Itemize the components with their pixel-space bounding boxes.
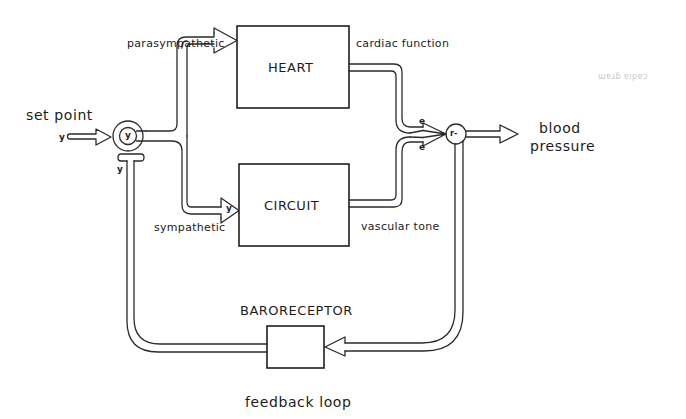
set-point-label: set point: [26, 108, 93, 122]
baroreceptor-input-arrow: [325, 337, 345, 356]
vascular-tone-label: vascular tone: [361, 221, 440, 232]
bleed-through-artifact: ɯɐɹɓ ɐıpɐɔ: [598, 73, 648, 81]
blood-pressure-label-line1: blood: [539, 121, 581, 135]
circuit-label: CIRCUIT: [264, 199, 319, 212]
effect-variable-top: e: [419, 117, 425, 126]
sympathetic-label: sympathetic: [154, 222, 225, 233]
baroreceptor-label: BARORECEPTOR: [240, 304, 353, 317]
input-variable-y: y: [59, 133, 65, 142]
cardiac-function-pipe: [349, 64, 423, 133]
comparator-variable-y: y: [125, 131, 131, 140]
feedback-variable-y: y: [117, 165, 123, 174]
heart-label: HEART: [268, 61, 313, 74]
feedback-pipe-right: [345, 141, 463, 351]
block-diagram: [0, 0, 686, 419]
autonomic-channel: [137, 33, 222, 218]
blood-pressure-label-line2: pressure: [530, 139, 595, 153]
baroreceptor-block: [267, 326, 324, 368]
summing-variable: r-: [450, 130, 457, 138]
feedback-loop-label: feedback loop: [245, 395, 351, 409]
vascular-tone-pipe: [349, 137, 423, 207]
parasympathetic-label: parasympathetic: [127, 38, 225, 49]
cardiac-function-label: cardiac function: [356, 38, 449, 49]
sympathetic-variable-y: y: [226, 204, 232, 213]
effect-variable-bottom: e: [419, 143, 425, 152]
blood-pressure-output-arrow: [466, 125, 518, 143]
set-point-input-arrow: [68, 129, 112, 145]
feedback-t-bar: [118, 154, 144, 161]
